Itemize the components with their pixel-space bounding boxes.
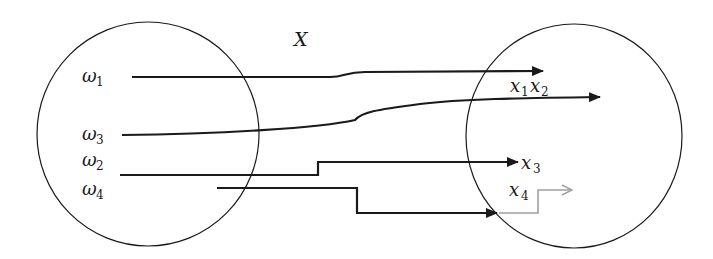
omega-3-label: ω 3 [82, 123, 104, 147]
mapping-arrow-omega1-x1 [132, 71, 543, 77]
random-variable-label: X [292, 28, 309, 50]
omega-1-label: ω 1 [82, 65, 104, 89]
svg-text:ω: ω [82, 65, 97, 86]
mapping-arrow-omega4-boundary [217, 188, 497, 213]
omega-4-label: ω 4 [82, 178, 104, 202]
x3-label: x 3 [521, 152, 541, 176]
random-variable-mapping-diagram: X ω 1 ω 3 ω 2 ω 4 x 1 x 2 x 3 x [0, 0, 713, 259]
svg-text:2: 2 [96, 159, 104, 173]
svg-text:x: x [530, 75, 540, 96]
svg-text:1: 1 [96, 75, 104, 89]
svg-text:x: x [510, 75, 520, 96]
svg-text:x: x [521, 152, 531, 173]
x4-label: x 4 [509, 179, 529, 203]
mapping-arrow-omega2-x3 [120, 162, 518, 175]
svg-text:ω: ω [82, 178, 97, 199]
mapping-arrow-omega3-x2 [122, 97, 600, 135]
svg-text:x: x [509, 179, 519, 200]
omega-2-label: ω 2 [82, 149, 104, 173]
svg-text:ω: ω [82, 149, 97, 170]
svg-text:4: 4 [96, 188, 104, 202]
svg-text:4: 4 [521, 189, 529, 203]
svg-text:ω: ω [82, 123, 97, 144]
svg-text:3: 3 [96, 133, 104, 147]
svg-text:3: 3 [533, 162, 541, 176]
diagram-svg: X ω 1 ω 3 ω 2 ω 4 x 1 x 2 x 3 x [0, 0, 713, 259]
svg-text:1: 1 [521, 85, 529, 99]
range-circle [466, 24, 682, 248]
x1-x2-label: x 1 x 2 [510, 75, 549, 99]
